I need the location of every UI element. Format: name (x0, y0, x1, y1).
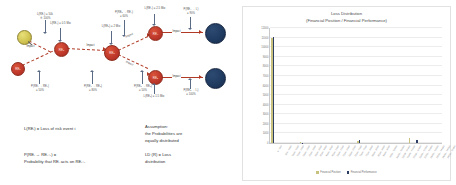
legend-loss-definition: L(REᵢ) = Loss of risk event i (24, 126, 134, 133)
chart-plot-area: 0100020003000400050006000700080009000100… (269, 28, 442, 144)
legend-ld-definition: LD (R) = Loss distribution (145, 152, 225, 166)
chart-legend-label: Financial Position (320, 171, 340, 174)
loss-distribution-chart: Loss Distribution (Financial Position / … (242, 6, 451, 181)
chart-gridline: 8000 (270, 65, 442, 66)
chart-legend: Financial PositionFinancial Performance (243, 171, 450, 174)
chart-title: Loss Distribution (Financial Position / … (243, 11, 450, 24)
chart-gridline: 2000 (270, 123, 442, 124)
chart-gridline: 6000 (270, 85, 442, 86)
connector-cap-l-re2 (58, 40, 62, 42)
annotation-prob-re4-i1: P(RE₄ → I₁) = 90% (178, 8, 204, 16)
y-axis-tick-label: 5000 (263, 94, 269, 97)
chart-bar (416, 140, 418, 143)
chart-gridline: 9000 (270, 56, 442, 57)
chart-gridline: 10000 (270, 46, 442, 47)
annotation-prob-re2-re3: P(RE₂ → RE₃) = 80% (78, 85, 108, 93)
chart-gridline: 1000 (270, 132, 442, 133)
connector-cap-l-re3 (109, 43, 113, 45)
node-re1-label: RE₁ (12, 67, 24, 71)
y-axis-tick-label: 9000 (263, 55, 269, 58)
edge-arrow-impact2 (199, 75, 202, 79)
y-axis-tick-label: 1000 (263, 132, 269, 135)
chart-legend-swatch (347, 171, 350, 174)
y-axis-tick-label: 7000 (263, 74, 269, 77)
annotation-loss-re3: L(RE₃) = 2 Mio (95, 25, 127, 29)
node-re4-label: RE₄ (149, 32, 162, 36)
chart-gridline: 5000 (270, 94, 442, 95)
edge-tag-impact-6: Impact (172, 75, 181, 78)
edge-re5-to-impact2 (161, 77, 203, 78)
legend-assumption: Assumption: the Probabilities are equall… (145, 124, 225, 145)
chart-gridline: 4000 (270, 104, 442, 105)
edge-tag-impact-2: Impact (86, 44, 95, 47)
chart-legend-label: Financial Performance (351, 171, 377, 174)
annotation-loss-re5: L(RE₅) = 1.5 Mio (138, 95, 170, 99)
annotation-loss-re1: L(RE₁) = 50k ≙ 100% (31, 13, 59, 21)
edge-tag-impact-5: Impact (172, 30, 181, 33)
annotation-loss-re2: L(RE₂) = 0.5 Mio (44, 22, 77, 26)
connector-p-re2-re3 (92, 72, 93, 84)
connector-cap-l-re4 (152, 24, 156, 26)
connector-cap-p-re4-i1 (188, 28, 192, 30)
edge-re1-to-re2 (22, 51, 53, 66)
annotation-prob-re3-re5: P(RE₃ → RE₅) = 50% (128, 85, 158, 93)
y-axis-tick-label: 3000 (263, 113, 269, 116)
legend-probability-definition: P(REᵢ → REᵢ₊₁) = Probability that REᵢ ac… (24, 152, 139, 166)
connector-p-re1-re2 (39, 72, 40, 84)
annotation-prob-re3-re4: P(RE₃ → RE₄) = 60% (109, 11, 139, 19)
x-axis-tick-label: 500 - 1000 (284, 145, 291, 156)
chart-bar (409, 138, 411, 143)
connector-cap-l-re1 (43, 32, 47, 34)
node-re3-label: RE₃ (105, 51, 119, 55)
node-re2[interactable]: RE₂ (54, 42, 69, 57)
node-re2-label: RE₂ (55, 48, 68, 52)
chart-bar (273, 37, 275, 143)
annotation-prob-re1-re2: P(RE₁ → RE₂) = 50% (25, 85, 55, 93)
node-re4[interactable]: RE₄ (148, 26, 163, 41)
annotation-prob-re5-i2: P(RE₅ → I₂) = 100% (178, 89, 204, 97)
y-axis-tick-label: 8000 (263, 65, 269, 68)
chart-bar (359, 140, 361, 143)
chart-gridline: 7000 (270, 75, 442, 76)
y-axis-tick-label: 11000 (261, 36, 268, 39)
connector-cap-p-re3-re5 (140, 70, 144, 72)
y-axis-tick-label: 10000 (261, 46, 268, 49)
connector-cap-p-re1-re2 (37, 70, 41, 72)
edge-re3-to-re5 (118, 54, 148, 69)
chart-legend-item[interactable]: Financial Position (316, 171, 340, 174)
edge-re2-to-re3 (67, 48, 105, 51)
node-impact-1[interactable] (205, 23, 226, 44)
y-axis-tick-label: 6000 (263, 84, 269, 87)
node-impact-2[interactable] (205, 68, 226, 89)
y-axis-tick-label: 12000 (261, 27, 268, 30)
node-re5-label: RE₅ (149, 76, 162, 80)
y-axis-tick-label: 4000 (263, 103, 269, 106)
chart-gridline: 3000 (270, 113, 442, 114)
chart-legend-item[interactable]: Financial Performance (347, 171, 377, 174)
annotation-loss-re4: L(RE₄) = 2.5 Mio (139, 7, 171, 11)
node-re3[interactable]: RE₃ (104, 45, 120, 61)
connector-p-re5-i2 (190, 80, 191, 89)
node-re1[interactable]: RE₁ (11, 62, 25, 76)
y-axis-tick-label: 0 (267, 142, 268, 145)
y-axis-tick-label: 2000 (263, 122, 269, 125)
x-axis-tick-label: 0 - 500 (277, 145, 282, 152)
connector-cap-p-re5-i2 (188, 78, 192, 80)
edge-tag-impact-3: Impact (125, 32, 134, 38)
edge-re3-to-re4 (118, 36, 148, 51)
edge-tag-impact-1: Impact (26, 45, 35, 48)
edge-re4-to-impact1 (161, 32, 203, 33)
risk-event-network-diagram: RE₁ RE₂ RE₃ RE₄ RE₅ (0, 0, 240, 185)
chart-legend-swatch (316, 171, 319, 174)
chart-gridline: 11000 (270, 37, 442, 38)
chart-gridline: 12000 (270, 27, 442, 28)
edge-arrow-impact1 (199, 30, 202, 34)
connector-cap-p-re2-re3 (90, 70, 94, 72)
connector-p-re3-re5 (142, 72, 143, 84)
